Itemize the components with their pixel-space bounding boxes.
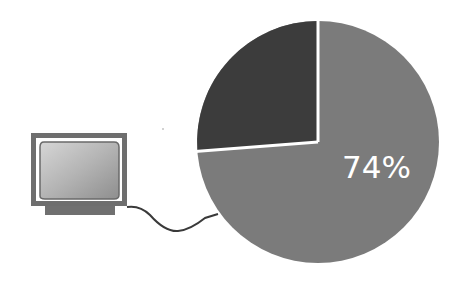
- slice-26: [197, 21, 318, 152]
- pie-chart-figure: 74%: [0, 0, 453, 284]
- cable: [127, 207, 218, 231]
- percent-label: 74%: [342, 149, 411, 185]
- pie: [195, 19, 439, 263]
- television-icon: [31, 133, 127, 215]
